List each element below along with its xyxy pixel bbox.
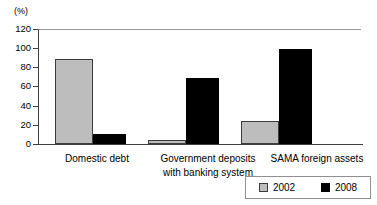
y-tick-label-80: 80: [3, 62, 31, 72]
legend-item-2008[interactable]: 2008: [321, 182, 357, 193]
y-tick-label-20: 20: [3, 120, 31, 130]
bars-layer: [38, 29, 361, 144]
bar-domestic-debt-2008: [93, 134, 126, 144]
black-square-swatch-icon: [321, 183, 330, 192]
legend-item-2002[interactable]: 2002: [259, 182, 295, 193]
y-tick-label-40: 40: [3, 101, 31, 111]
bar-domestic-debt-2002: [55, 59, 93, 144]
x-category-label-government-deposits-line1: Government deposits: [148, 152, 268, 165]
bar-government-deposits-2008: [186, 78, 219, 144]
bar-government-deposits-2002: [148, 140, 186, 144]
gray-square-swatch-icon: [259, 183, 268, 192]
x-category-label-sama-foreign-assets: SAMA foreign assets: [261, 152, 373, 165]
y-tick-label-0: 0: [3, 139, 31, 149]
y-tick-label-100: 100: [3, 43, 31, 53]
bar-sama-foreign-assets-2002: [241, 121, 279, 144]
legend-label-2008: 2008: [335, 182, 357, 193]
y-tick-label-120: 120: [3, 24, 31, 34]
x-axis-baseline: [38, 144, 363, 145]
chart-legend: 2002 2008: [245, 176, 371, 199]
y-tick-label-60: 60: [3, 81, 31, 91]
bar-chart: (%) 120 100 80 60 40 20 0 Domestic debt …: [0, 0, 377, 205]
bar-sama-foreign-assets-2008: [279, 49, 312, 144]
y-axis-unit-label: (%): [14, 6, 28, 16]
legend-label-2002: 2002: [273, 182, 295, 193]
x-category-label-domestic-debt: Domestic debt: [38, 152, 156, 165]
